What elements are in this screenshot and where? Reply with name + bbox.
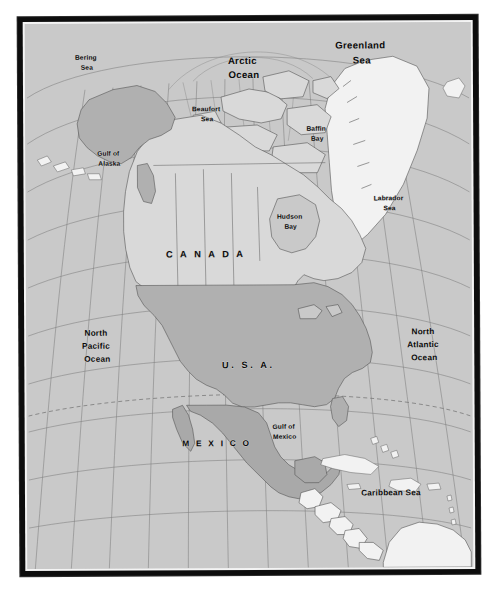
map-plate: Arctic Ocean North Pacific Ocean North A… <box>25 22 474 569</box>
map-frame-outer: Arctic Ocean North Pacific Ocean North A… <box>18 15 481 576</box>
label-north-atlantic-ocean: North Atlantic Ocean <box>407 327 441 362</box>
map-figure: Arctic Ocean North Pacific Ocean North A… <box>0 0 497 602</box>
map-canvas: Arctic Ocean North Pacific Ocean North A… <box>25 22 474 569</box>
label-canada: C A N A D A <box>166 249 246 259</box>
label-usa: U. S. A. <box>222 360 275 370</box>
label-north-pacific-ocean: North Pacific Ocean <box>82 329 112 364</box>
map-frame-inner: Arctic Ocean North Pacific Ocean North A… <box>23 20 476 571</box>
label-caribbean-sea: Caribbean Sea <box>361 488 421 497</box>
label-mexico: M E X I C O <box>182 438 251 448</box>
